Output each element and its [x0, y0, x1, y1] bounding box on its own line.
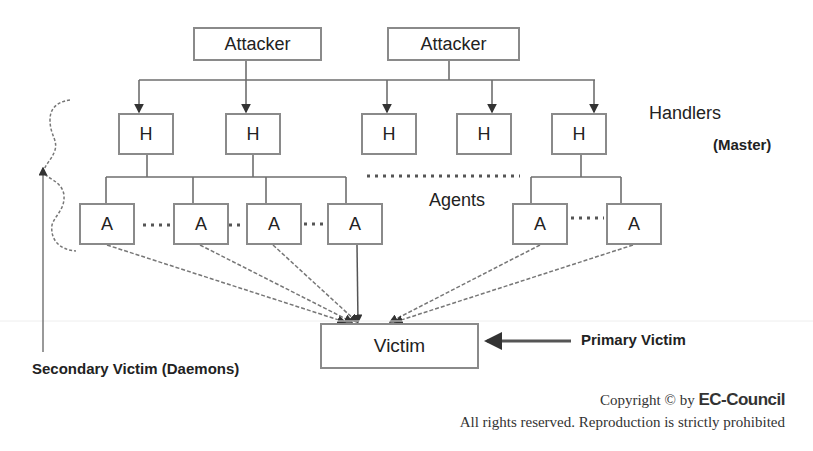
attacker-label: Attacker	[420, 34, 486, 55]
primary-victim-label: Primary Victim	[581, 331, 686, 348]
agent-label: A	[628, 214, 640, 235]
copyright-notice: Copyright © by EC-Council All rights res…	[460, 389, 785, 433]
attacker-box-1: Attacker	[193, 27, 322, 61]
handler-box-3: H	[361, 113, 417, 155]
agent-box-1: A	[79, 203, 135, 245]
agent-box-4: A	[327, 203, 383, 245]
agents-label: Agents	[429, 190, 485, 211]
agent-label: A	[195, 214, 207, 235]
handler-box-5: H	[551, 113, 607, 155]
agent-label: A	[534, 214, 546, 235]
agent-box-2: A	[173, 203, 229, 245]
handler-label: H	[140, 124, 153, 145]
handler-label: H	[247, 124, 260, 145]
handler-box-4: H	[456, 113, 512, 155]
handler-box-1: H	[118, 113, 174, 155]
victim-box: Victim	[320, 323, 479, 369]
brand-name: EC-Council	[698, 390, 785, 409]
handler-box-2: H	[225, 113, 281, 155]
copyright-prefix: Copyright © by	[600, 392, 698, 408]
handler-label: H	[383, 124, 396, 145]
rights-line: All rights reserved. Reproduction is str…	[460, 411, 785, 433]
agent-box-3: A	[246, 203, 302, 245]
handler-label: H	[573, 124, 586, 145]
handlers-label: Handlers	[649, 103, 721, 124]
master-label: (Master)	[713, 136, 771, 153]
attacker-box-2: Attacker	[387, 27, 520, 61]
victim-label: Victim	[374, 335, 425, 357]
agent-label: A	[268, 214, 280, 235]
handler-label: H	[478, 124, 491, 145]
secondary-victim-label: Secondary Victim (Daemons)	[32, 360, 239, 377]
attacker-label: Attacker	[224, 34, 290, 55]
copyright-line: Copyright © by EC-Council	[460, 389, 785, 411]
agent-box-5: A	[512, 203, 568, 245]
agent-label: A	[349, 214, 361, 235]
agent-label: A	[101, 214, 113, 235]
agent-box-6: A	[606, 203, 662, 245]
